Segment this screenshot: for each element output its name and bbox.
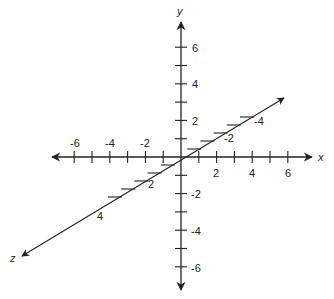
- z-tick-label: 4: [97, 210, 103, 222]
- x-axis: [52, 151, 312, 163]
- z-tick-label: -2: [224, 132, 234, 144]
- x-tick-label: 2: [213, 167, 219, 179]
- y-tick-label: -2: [191, 188, 201, 200]
- x-tick-label: 4: [249, 167, 255, 179]
- y-axis-label: y: [176, 5, 184, 17]
- y-axis: [175, 22, 187, 290]
- y-tick-label: 6: [192, 42, 198, 54]
- z-tick-label: -4: [254, 115, 264, 127]
- x-tick-label: -6: [70, 137, 80, 149]
- 3d-axes-diagram: -6 -4 -2 2 4 6 6 4 2 -2 -4 -6 -4 -2 2 4 …: [0, 0, 334, 299]
- y-tick-label: -4: [191, 225, 201, 237]
- y-tick-label: 4: [192, 78, 198, 90]
- z-tick-label: 2: [148, 178, 154, 190]
- z-axis-label: z: [9, 252, 16, 264]
- axes-svg: -6 -4 -2 2 4 6 6 4 2 -2 -4 -6 -4 -2 2 4 …: [0, 0, 334, 299]
- y-tick-label: -6: [191, 262, 201, 274]
- y-tick-label: 2: [192, 115, 198, 127]
- x-tick-label: -2: [140, 137, 150, 149]
- x-tick-label: -4: [105, 137, 115, 149]
- x-tick-label: 6: [285, 167, 291, 179]
- x-axis-label: x: [317, 151, 324, 163]
- z-axis: [22, 98, 284, 256]
